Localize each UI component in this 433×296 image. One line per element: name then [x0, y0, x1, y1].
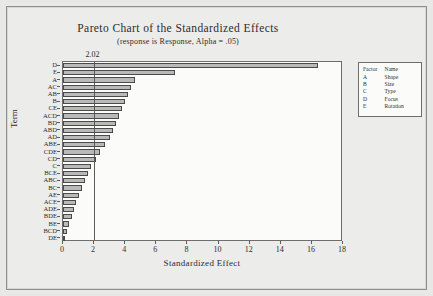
y-axis-tick-label: ACE [44, 198, 57, 205]
x-axis-tick-label: 4 [122, 245, 126, 254]
y-axis-tick-label: ABC [43, 176, 57, 183]
y-axis-tick-label: AE [48, 191, 57, 198]
y-axis-tick-labels: DEAACABBCEACDBDABDADABECDECDCBCEABCBCAEA… [0, 61, 60, 241]
y-axis-tick-mark [57, 194, 60, 195]
legend-header-factor: Factor [363, 66, 385, 74]
x-axis-tick-label: 0 [60, 245, 64, 254]
x-axis-tick-labels: 024681012141618 [62, 241, 342, 255]
x-axis-tick-mark [186, 241, 187, 244]
x-axis-tick-mark [93, 241, 94, 244]
y-axis-tick-label: BDE [44, 212, 57, 219]
y-axis-tick-mark [57, 144, 60, 145]
reference-line-layer [63, 62, 341, 240]
x-axis-tick-label: 10 [214, 245, 222, 254]
chart-window: Pareto Chart of the Standardized Effects… [0, 0, 433, 296]
x-axis-title: Standardized Effect [62, 258, 342, 268]
y-axis-tick-mark [57, 79, 60, 80]
legend-name: Rotation [385, 102, 417, 109]
legend-table: Factor Name AShapeBSizeCTypeDFocusERotat… [363, 66, 417, 109]
legend-name: Focus [385, 95, 417, 102]
x-axis-tick-label: 16 [307, 245, 315, 254]
x-axis-tick-mark [155, 241, 156, 244]
y-axis-tick-mark [57, 180, 60, 181]
y-axis-tick-label: CDE [44, 148, 57, 155]
y-axis-tick-mark [57, 72, 60, 73]
x-axis-tick-label: 2 [91, 245, 95, 254]
legend-factor: C [363, 88, 385, 95]
x-axis-tick-mark [311, 241, 312, 244]
y-axis-tick-label: DE [48, 234, 57, 241]
y-axis-tick-label: ABE [44, 140, 57, 147]
factor-legend: Factor Name AShapeBSizeCTypeDFocusERotat… [358, 62, 422, 117]
x-axis-tick-mark [62, 241, 63, 244]
legend-row: DFocus [363, 95, 417, 102]
y-axis-tick-mark [57, 65, 60, 66]
chart-subtitle: (response is Response, Alpha = .05) [0, 37, 356, 46]
y-axis-tick-label: BE [49, 220, 57, 227]
x-axis-tick-mark [249, 241, 250, 244]
y-axis-tick-label: ABD [43, 126, 57, 133]
y-axis-tick-mark [57, 115, 60, 116]
reference-line-label: 2.02 [85, 50, 99, 59]
legend-name: Type [385, 88, 417, 95]
y-axis-tick-label: CD [48, 155, 57, 162]
legend-row: ERotation [363, 102, 417, 109]
y-axis-tick-mark [57, 158, 60, 159]
legend-name: Size [385, 81, 417, 88]
legend-header-row: Factor Name [363, 66, 417, 74]
y-axis-tick-mark [57, 129, 60, 130]
y-axis-tick-mark [57, 122, 60, 123]
y-axis-tick-label: ADE [43, 205, 57, 212]
y-axis-tick-mark [57, 237, 60, 238]
legend-factor: E [363, 102, 385, 109]
y-axis-tick-mark [57, 216, 60, 217]
y-axis-tick-label: ACD [43, 112, 57, 119]
y-axis-tick-label: BC [48, 184, 57, 191]
y-axis-tick-mark [57, 223, 60, 224]
y-axis-tick-label: BCE [44, 169, 57, 176]
y-axis-tick-mark [57, 165, 60, 166]
legend-factor: B [363, 81, 385, 88]
x-axis-tick-label: 14 [276, 245, 284, 254]
legend-row: BSize [363, 81, 417, 88]
x-axis-tick-label: 12 [245, 245, 253, 254]
reference-line [94, 62, 95, 240]
y-axis-tick-label: AD [47, 133, 57, 140]
y-axis-tick-label: AC [48, 83, 57, 90]
legend-name: Shape [385, 74, 417, 81]
x-axis-tick-mark [280, 241, 281, 244]
legend-row: CType [363, 88, 417, 95]
y-axis-tick-mark [57, 108, 60, 109]
x-axis-tick-label: 8 [184, 245, 188, 254]
y-axis-tick-mark [57, 230, 60, 231]
y-axis-tick-mark [57, 187, 60, 188]
y-axis-tick-mark [57, 86, 60, 87]
legend-header-name: Name [385, 66, 417, 74]
legend-factor: D [363, 95, 385, 102]
plot-area [62, 61, 342, 241]
x-axis-tick-mark [124, 241, 125, 244]
y-axis-tick-mark [57, 209, 60, 210]
y-axis-tick-label: BD [48, 119, 57, 126]
y-axis-tick-mark [57, 201, 60, 202]
y-axis-tick-mark [57, 137, 60, 138]
y-axis-tick-mark [57, 101, 60, 102]
y-axis-tick-label: CE [49, 104, 57, 111]
x-axis-tick-label: 18 [338, 245, 346, 254]
y-axis-tick-mark [57, 93, 60, 94]
legend-row: AShape [363, 74, 417, 81]
y-axis-tick-label: AB [48, 90, 57, 97]
legend-factor: A [363, 74, 385, 81]
x-axis-tick-mark [342, 241, 343, 244]
x-axis-tick-label: 6 [153, 245, 157, 254]
y-axis-tick-label: BCD [43, 227, 57, 234]
x-axis-tick-mark [218, 241, 219, 244]
chart-title: Pareto Chart of the Standardized Effects [0, 22, 356, 34]
y-axis-tick-mark [57, 173, 60, 174]
y-axis-tick-mark [57, 151, 60, 152]
